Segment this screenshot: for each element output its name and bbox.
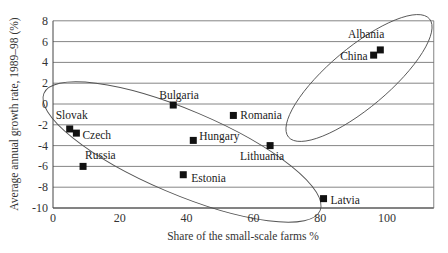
data-point-lithuania — [267, 142, 274, 149]
point-label-russia: Russia — [85, 149, 116, 161]
x-tick-label: 20 — [114, 211, 126, 225]
point-label-hungary: Hungary — [199, 130, 239, 143]
point-label-estonia: Estonia — [191, 172, 226, 184]
cluster-ellipse-albania-china — [269, 0, 448, 160]
axes: 86420-2-4-6-8-10020406080100 — [32, 14, 434, 225]
data-points: SlovakCzechRussiaBulgariaRomaniaHungaryL… — [56, 28, 385, 206]
point-label-latvia: Latvia — [331, 194, 360, 206]
point-label-lithuania: Lithuania — [240, 150, 284, 162]
data-point-romania — [230, 112, 237, 119]
y-tick-label: 2 — [42, 76, 48, 90]
data-point-bulgaria — [170, 102, 177, 109]
x-tick-label: 80 — [314, 211, 326, 225]
y-tick-label: 4 — [42, 55, 48, 69]
data-point-latvia — [320, 195, 327, 202]
data-point-slovak — [66, 125, 73, 132]
y-tick-label: 0 — [42, 97, 48, 111]
data-point-albania — [377, 46, 384, 53]
y-tick-label: -2 — [38, 118, 48, 132]
data-point-hungary — [190, 137, 197, 144]
data-point-russia — [80, 163, 87, 170]
y-tick-label: -8 — [38, 180, 48, 194]
y-tick-label: -6 — [38, 159, 48, 173]
x-tick-label: 100 — [378, 211, 396, 225]
y-tick-label: 6 — [42, 35, 48, 49]
point-label-bulgaria: Bulgaria — [159, 89, 199, 102]
x-tick-label: 0 — [50, 211, 56, 225]
point-label-czech: Czech — [82, 129, 111, 141]
point-label-albania: Albania — [348, 28, 384, 40]
scatter-chart: 86420-2-4-6-8-10020406080100 SlovakCzech… — [0, 0, 448, 253]
data-point-china — [370, 52, 377, 59]
y-tick-label: -4 — [38, 139, 48, 153]
y-tick-label: -10 — [32, 201, 48, 215]
x-tick-label: 60 — [247, 211, 259, 225]
x-tick-label: 40 — [181, 211, 193, 225]
point-label-china: China — [340, 50, 367, 62]
data-point-estonia — [180, 171, 187, 178]
data-point-czech — [73, 130, 80, 137]
x-axis-title: Share of the small-scale farms % — [167, 230, 319, 242]
point-label-romania: Romania — [240, 109, 282, 121]
y-tick-label: 8 — [42, 14, 48, 28]
y-axis-title: Average annual growth rate, 1989–98 (%) — [8, 17, 21, 210]
point-label-slovak: Slovak — [56, 109, 88, 121]
